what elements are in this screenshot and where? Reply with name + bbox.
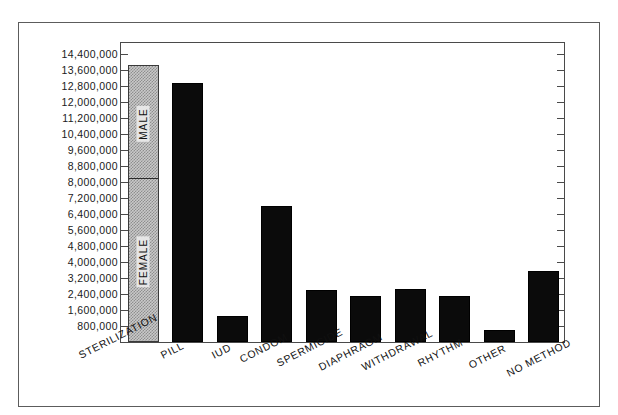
y-axis-tick-label: 5,600,000: [30, 225, 118, 236]
bar-other[interactable]: [484, 330, 515, 342]
y-axis-tick-label: 4,800,000: [30, 241, 118, 252]
x-axis-label-pill: PILL: [159, 340, 186, 361]
x-axis-label-no-method: NO METHOD: [505, 337, 573, 379]
y-axis-tick-label: 2,400,000: [30, 289, 118, 300]
y-axis-tick-label: 6,400,000: [30, 209, 118, 220]
y-axis-tick-label: 8,800,000: [30, 161, 118, 172]
x-axis-label-other: OTHER: [467, 343, 508, 371]
y-axis: 14,400,00013,600,00012,800,00012,000,000…: [30, 42, 118, 343]
y-axis-tick-label: 12,000,000: [30, 97, 118, 108]
y-axis-tick-label: 4,000,000: [30, 257, 118, 268]
segment-label-male: MALE: [137, 106, 150, 142]
bar-iud[interactable]: [217, 316, 248, 342]
y-axis-tick-label: 13,600,000: [30, 65, 118, 76]
bars-group: FEMALEMALE: [121, 43, 564, 342]
bar-sterilization[interactable]: FEMALEMALE: [128, 65, 159, 342]
y-axis-tick-label: 14,400,000: [30, 49, 118, 60]
bar-diaphragm[interactable]: [350, 296, 381, 342]
stack-segment-divider: [129, 178, 158, 179]
y-axis-tick-label: 1,600,000: [30, 305, 118, 316]
segment-label-female: FEMALE: [137, 237, 150, 288]
x-axis-label-iud: IUD: [210, 342, 233, 361]
y-axis-tick-label: 11,200,000: [30, 113, 118, 124]
y-axis-tick-label: 12,800,000: [30, 81, 118, 92]
bar-pill[interactable]: [172, 83, 203, 342]
y-axis-tick-label: 9,600,000: [30, 145, 118, 156]
y-axis-tick-label: 10,400,000: [30, 129, 118, 140]
y-axis-tick-label: 7,200,000: [30, 193, 118, 204]
bar-condom[interactable]: [261, 206, 292, 342]
bar-spermicide[interactable]: [306, 290, 337, 342]
y-axis-tick-label: 3,200,000: [30, 273, 118, 284]
bar-rhythm[interactable]: [439, 296, 470, 342]
bar-withdrawal[interactable]: [395, 289, 426, 342]
y-axis-tick-label: 800,000: [30, 321, 118, 332]
bar-no-method[interactable]: [528, 271, 559, 342]
bar-chart: 14,400,00013,600,00012,800,00012,000,000…: [0, 0, 618, 415]
y-axis-tick-label: 8,000,000: [30, 177, 118, 188]
